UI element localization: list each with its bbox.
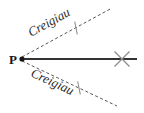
lower-ray-label: Creigiau	[29, 65, 77, 98]
point-p-dot-icon	[19, 56, 24, 61]
geometry-diagram: P Creigiau Creigiau	[0, 0, 144, 113]
upper-ray-label: Creigiau	[25, 4, 73, 40]
diagram-canvas: P Creigiau Creigiau	[0, 0, 144, 113]
point-p-label: P	[9, 52, 17, 67]
